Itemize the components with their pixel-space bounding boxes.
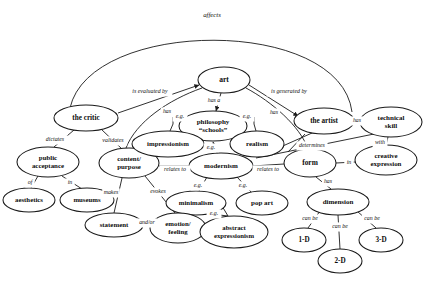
- edge-label-pa-of: of: [25, 178, 34, 187]
- concept-map-svg: artthe criticthe artisttechnicalskillphi…: [0, 0, 426, 281]
- edge-label-can-be-3d: can be: [362, 214, 382, 223]
- edge-label-form-has: has: [322, 177, 334, 186]
- edge-label-mod-relates-to: relates to: [252, 165, 283, 174]
- node-label: skill: [385, 122, 398, 130]
- node-label: expression: [371, 160, 402, 167]
- node-label: the artist: [310, 117, 338, 125]
- edge-label-text: has: [353, 117, 362, 123]
- edge-eg-impressionism-path: [170, 124, 173, 131]
- edge-label-art-has-left: has: [161, 107, 173, 116]
- edge-label-text: has: [163, 108, 172, 114]
- edge-label-text: and/or: [139, 219, 155, 225]
- node-impressionism[interactable]: impressionism: [132, 131, 204, 157]
- edge-label-pa-in: in: [65, 178, 74, 187]
- edge-label-is-generated-by: is generated by: [267, 87, 312, 96]
- edge-label-can-be-1d: can be: [300, 214, 320, 223]
- node-two-d[interactable]: 2-D: [318, 249, 362, 273]
- concept-map-canvas: artthe criticthe artisttechnicalskillphi…: [0, 0, 426, 281]
- edge-label-text: can be: [364, 215, 380, 221]
- node-label: 3-D: [375, 236, 386, 244]
- edge-label-eg-modernism: e.g.: [204, 143, 219, 152]
- edge-label-text: validates: [102, 137, 124, 143]
- edge-label-text: can be: [332, 223, 348, 229]
- node-dimension[interactable]: dimension: [307, 189, 369, 215]
- edge-label-text: dictates: [46, 136, 65, 142]
- edge-label-text: makes: [104, 189, 119, 195]
- node-pop-art[interactable]: pop art: [236, 191, 288, 215]
- edge-eg-realism-path: [254, 124, 256, 131]
- node-label: minimalism: [179, 199, 214, 206]
- edge-label-is-evaluated-by: is evaluated by: [128, 87, 173, 96]
- edge-label-text: relates to: [164, 166, 186, 172]
- edge-label-text: e.g.: [243, 113, 252, 119]
- node-label: realism: [246, 140, 268, 148]
- edge-canbe-2d-path: [338, 215, 340, 249]
- edge-label-text: e.g.: [194, 182, 203, 188]
- edge-label-text: e.g.: [176, 113, 185, 119]
- node-label: abstract: [222, 224, 246, 231]
- node-label: 1-D: [298, 236, 309, 244]
- node-label: form: [302, 158, 318, 167]
- edge-label-art-has-right: has: [268, 108, 280, 117]
- edge-label-cp-evokes: evokes: [148, 187, 168, 196]
- edge-label-affects: affects: [199, 10, 225, 21]
- node-label: purpose: [117, 163, 141, 170]
- edge-label-eg-abstract: e.g.: [207, 209, 222, 218]
- node-label: emotion/: [165, 220, 190, 227]
- node-label: statement: [100, 221, 129, 228]
- node-label: 2-D: [334, 257, 345, 265]
- edge-label-cp-relates-to: relates to: [159, 165, 190, 174]
- node-label: content/: [117, 155, 141, 162]
- edge-label-cp-makes: makes: [102, 188, 120, 197]
- node-label: “schools”: [199, 126, 228, 134]
- edge-label-artist-has: has: [351, 116, 363, 125]
- edge-label-eg-impressionism: e.g.: [173, 112, 188, 121]
- node-statement[interactable]: statement: [85, 213, 143, 237]
- node-label: acceptance: [32, 162, 64, 169]
- node-emotion-feeling[interactable]: emotion/feeling: [150, 213, 206, 243]
- node-public-acceptance[interactable]: publicacceptance: [17, 147, 79, 177]
- edge-label-artist-determines: determines: [296, 141, 327, 150]
- node-creative-expression[interactable]: creativeexpression: [355, 145, 417, 175]
- node-label: pop art: [251, 199, 274, 207]
- edge-label-can-be-2d: can be: [330, 222, 350, 231]
- node-aesthetics[interactable]: aesthetics: [3, 188, 55, 212]
- edge-label-text: e.g.: [239, 182, 248, 188]
- node-technical-skill[interactable]: technicalskill: [360, 107, 422, 137]
- edge-label-text: in: [68, 179, 73, 185]
- edge-label-text: has: [324, 178, 333, 184]
- node-realism[interactable]: realism: [230, 131, 284, 157]
- edge-label-text: in: [347, 159, 352, 165]
- edge-label-text: is evaluated by: [132, 88, 168, 94]
- node-the-critic[interactable]: the critic: [54, 105, 118, 131]
- edge-label-text: relates to: [257, 166, 279, 172]
- edge-label-text: e.g.: [210, 210, 219, 216]
- node-label: dimension: [323, 198, 354, 206]
- node-abstract-expressionism[interactable]: abstractexpressionism: [200, 216, 268, 248]
- edge-label-art-has-a: has a: [205, 96, 223, 105]
- node-label: feeling: [168, 228, 188, 235]
- node-modernism[interactable]: modernism: [189, 153, 253, 179]
- edge-label-eg-minimalism: e.g.: [191, 181, 206, 190]
- node-form[interactable]: form: [284, 149, 336, 177]
- edge-label-form-in: in: [344, 158, 353, 167]
- node-label: museums: [73, 196, 101, 203]
- node-the-artist[interactable]: the artist: [294, 108, 354, 134]
- edge-label-eg-realism: e.g.: [240, 112, 255, 121]
- node-label: impressionism: [147, 140, 189, 147]
- edge-label-text: e.g.: [207, 144, 216, 150]
- node-art[interactable]: art: [198, 67, 250, 93]
- edge-label-text: can be: [302, 215, 318, 221]
- node-label: philosophy: [197, 118, 230, 126]
- node-three-d[interactable]: 3-D: [359, 228, 403, 252]
- edge-label-text: has: [270, 109, 279, 115]
- edge-label-text: with: [375, 139, 385, 145]
- node-label: creative: [374, 152, 397, 159]
- node-label: modernism: [204, 162, 238, 170]
- node-label: technical: [378, 114, 405, 122]
- node-label: art: [219, 75, 229, 84]
- node-one-d[interactable]: 1-D: [282, 228, 326, 252]
- edge-label-critic-dictates: dictates: [42, 135, 68, 144]
- edge-label-eg-pop-art: e.g.: [236, 181, 251, 190]
- edge-label-skill-with: with: [373, 138, 388, 147]
